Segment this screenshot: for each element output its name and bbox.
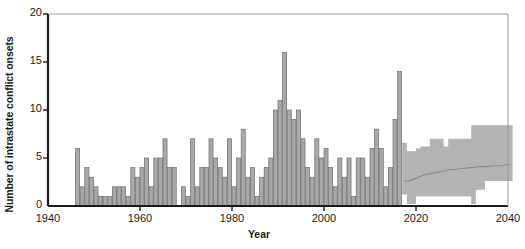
bar — [260, 177, 264, 206]
x-tick-label: 1960 — [110, 212, 170, 224]
bar — [108, 196, 112, 206]
bar — [117, 187, 121, 206]
bar — [200, 168, 204, 206]
bar — [375, 129, 379, 206]
bar — [264, 168, 268, 206]
bar — [131, 168, 135, 206]
bar — [227, 139, 231, 206]
bar — [310, 177, 314, 206]
bar — [398, 72, 402, 206]
bar — [186, 196, 190, 206]
bar — [80, 187, 84, 206]
bar — [393, 120, 397, 206]
bar — [140, 168, 144, 206]
bar — [126, 196, 130, 206]
bar — [154, 158, 158, 206]
y-tick-label: 5 — [14, 150, 42, 162]
bar — [283, 52, 287, 206]
bar — [342, 177, 346, 206]
bar — [149, 187, 153, 206]
bar — [338, 158, 342, 206]
bar — [103, 196, 107, 206]
bar — [356, 158, 360, 206]
bar — [319, 158, 323, 206]
bar — [352, 196, 356, 206]
bar — [204, 168, 208, 206]
bar — [269, 158, 273, 206]
bar — [315, 139, 319, 206]
bar — [163, 139, 167, 206]
bar — [172, 168, 176, 206]
bar — [333, 187, 337, 206]
bar — [347, 158, 351, 206]
bar — [181, 187, 185, 206]
bar — [112, 187, 116, 206]
bar-series — [76, 52, 402, 206]
bar — [365, 177, 369, 206]
y-tick-label: 15 — [14, 54, 42, 66]
bar — [191, 139, 195, 206]
bar — [218, 168, 222, 206]
bar — [246, 177, 250, 206]
bar — [135, 177, 139, 206]
bar — [76, 148, 80, 206]
forecast-band — [402, 125, 512, 204]
x-tick-label: 2040 — [478, 212, 525, 224]
y-tick-label: 20 — [14, 6, 42, 18]
bar — [292, 120, 296, 206]
bar — [122, 187, 126, 206]
bar — [223, 177, 227, 206]
bar — [237, 158, 241, 206]
bar — [94, 187, 98, 206]
x-tick-label: 2000 — [294, 212, 354, 224]
bar — [145, 158, 149, 206]
bar — [384, 187, 388, 206]
bar — [168, 168, 172, 206]
bar — [241, 129, 245, 206]
bar — [250, 168, 254, 206]
bar — [361, 158, 365, 206]
bar — [370, 148, 374, 206]
bar — [287, 110, 291, 206]
bar — [209, 139, 213, 206]
bar — [232, 187, 236, 206]
y-tick-label: 0 — [14, 198, 42, 210]
bar — [301, 139, 305, 206]
bar — [379, 148, 383, 206]
bar — [324, 148, 328, 206]
bar — [388, 168, 392, 206]
bar — [296, 110, 300, 206]
bar — [158, 158, 162, 206]
bar — [85, 168, 89, 206]
bar — [273, 110, 277, 206]
bar — [89, 177, 93, 206]
forecast-band-area — [402, 125, 512, 204]
y-tick-label: 10 — [14, 102, 42, 114]
x-tick-label: 2020 — [386, 212, 446, 224]
bar — [214, 158, 218, 206]
bar — [329, 168, 333, 206]
x-tick-label: 1940 — [18, 212, 78, 224]
x-tick-label: 1980 — [202, 212, 262, 224]
bar — [99, 196, 103, 206]
bar — [278, 100, 282, 206]
bar — [255, 196, 259, 206]
bar — [195, 187, 199, 206]
bar — [306, 168, 310, 206]
